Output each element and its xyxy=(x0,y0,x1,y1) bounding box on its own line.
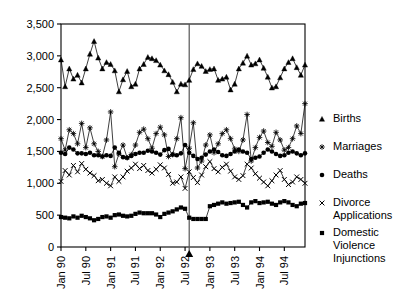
y-tick-label: 2,500 xyxy=(26,82,54,94)
marker-x xyxy=(203,164,208,169)
marker-square xyxy=(183,207,187,211)
marker-square xyxy=(84,215,88,219)
marker-plus xyxy=(207,132,213,138)
marker-triangle xyxy=(228,87,233,92)
marker-x xyxy=(137,166,142,171)
marker-triangle xyxy=(187,77,192,82)
marker-square xyxy=(109,216,113,220)
marker-square xyxy=(92,218,96,222)
marker-plus xyxy=(224,127,230,133)
marker-x xyxy=(145,168,150,173)
marker-plus xyxy=(277,137,283,143)
marker-x xyxy=(133,162,138,167)
x-tick-label: Jan 91 xyxy=(105,256,117,289)
marker-circle xyxy=(299,153,304,158)
marker-triangle xyxy=(216,77,221,82)
marker-circle xyxy=(320,173,325,178)
y-tick-label: 500 xyxy=(36,209,54,221)
marker-circle xyxy=(183,143,188,148)
marker-plus xyxy=(75,141,81,147)
marker-plus xyxy=(71,131,77,137)
legend-label: Applications xyxy=(333,209,393,221)
marker-x xyxy=(191,175,196,180)
marker-circle xyxy=(166,147,171,152)
marker-x xyxy=(92,173,97,178)
marker-x xyxy=(270,178,275,183)
marker-circle xyxy=(290,149,295,154)
x-tick-label: Jan 92 xyxy=(154,256,166,289)
marker-x xyxy=(79,161,84,166)
marker-triangle xyxy=(133,81,138,86)
marker-triangle xyxy=(224,74,229,79)
marker-triangle xyxy=(149,56,154,61)
marker-circle xyxy=(282,153,287,158)
marker-triangle xyxy=(249,62,254,67)
marker-triangle xyxy=(104,60,109,65)
marker-triangle xyxy=(125,69,130,74)
marker-square xyxy=(166,210,170,214)
marker-triangle xyxy=(120,77,125,82)
marker-circle xyxy=(174,153,179,158)
marker-square xyxy=(228,201,232,205)
marker-triangle xyxy=(170,79,175,84)
marker-triangle xyxy=(261,65,266,70)
marker-x xyxy=(75,169,80,174)
marker-plus xyxy=(215,141,221,147)
marker-x xyxy=(67,173,72,178)
marker-circle xyxy=(112,145,117,150)
legend-entry-births: Births xyxy=(319,112,361,124)
marker-circle xyxy=(253,156,258,161)
marker-triangle xyxy=(58,57,63,62)
marker-triangle xyxy=(87,51,92,56)
marker-x xyxy=(290,180,295,185)
marker-square xyxy=(75,216,79,220)
marker-x xyxy=(71,163,76,168)
marker-circle xyxy=(150,149,155,154)
marker-square xyxy=(237,200,241,204)
marker-circle xyxy=(121,155,126,160)
marker-triangle xyxy=(282,66,287,71)
marker-plus xyxy=(91,141,97,147)
marker-triangle xyxy=(240,60,245,65)
marker-circle xyxy=(241,149,246,154)
marker-triangle xyxy=(67,66,72,71)
marker-triangle xyxy=(257,57,262,62)
x-tick-label: Jul 91 xyxy=(129,256,141,285)
marker-plus xyxy=(302,101,308,107)
marker-triangle xyxy=(232,81,237,86)
legend-entry-domestic-violence-injunctions: DomesticViolenceInjunctions xyxy=(320,226,386,264)
marker-square xyxy=(241,203,245,207)
marker-square xyxy=(278,200,282,204)
marker-triangle xyxy=(191,67,196,72)
legend-entry-deaths: Deaths xyxy=(320,168,369,180)
marker-square xyxy=(286,200,290,204)
marker-plus xyxy=(195,165,201,171)
marker-triangle xyxy=(236,66,241,71)
marker-plus xyxy=(219,131,225,137)
marker-x xyxy=(166,172,171,177)
series-line xyxy=(61,41,305,91)
marker-plus xyxy=(174,136,180,142)
marker-x xyxy=(199,173,204,178)
marker-square xyxy=(204,217,208,221)
marker-triangle xyxy=(265,74,270,79)
marker-plus xyxy=(141,126,147,132)
marker-circle xyxy=(79,151,84,156)
marker-circle xyxy=(187,150,192,155)
marker-x xyxy=(294,175,299,180)
y-tick-label: 3,000 xyxy=(26,50,54,62)
marker-circle xyxy=(216,150,221,155)
marker-circle xyxy=(208,149,213,154)
y-tick-label: 1,000 xyxy=(26,177,54,189)
marker-circle xyxy=(224,154,229,159)
marker-x xyxy=(88,171,93,176)
marker-plus xyxy=(137,130,143,136)
marker-triangle xyxy=(269,85,274,90)
marker-x xyxy=(286,182,291,187)
marker-plus xyxy=(191,120,197,126)
marker-x xyxy=(253,171,258,176)
marker-triangle xyxy=(211,66,216,71)
marker-square xyxy=(67,216,71,220)
marker-circle xyxy=(237,147,242,152)
marker-circle xyxy=(108,154,113,159)
